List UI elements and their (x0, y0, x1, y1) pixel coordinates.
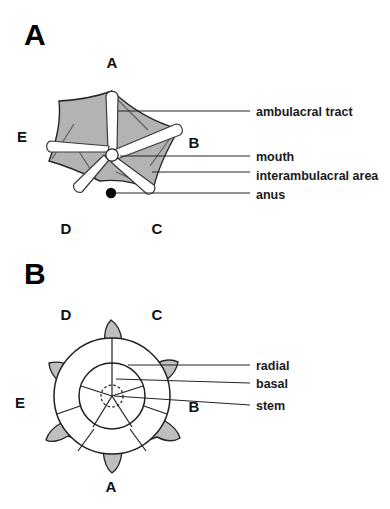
panel-b-ray-label-a: A (106, 478, 117, 495)
label-basal: basal (256, 377, 288, 391)
label-interambulacral-area: interambulacral area (256, 169, 379, 183)
panel-b-ray-label-e: E (15, 394, 25, 411)
panel-b-ray-label-d: D (61, 306, 72, 323)
label-mouth: mouth (256, 150, 294, 164)
label-anus: anus (256, 188, 285, 202)
mouth-marker (106, 149, 118, 161)
panel-a-ray-label-b: B (189, 134, 200, 151)
panel-a-ray-label-c: C (152, 220, 163, 237)
ambulacral-tract-a (106, 91, 118, 150)
panel-a-diagram: A B C D E ambulacral tract mouth interam… (0, 0, 390, 255)
panel-a-ray-label-a: A (107, 54, 118, 71)
panel-b: B D C E B A (0, 255, 390, 509)
label-ambulacral-tract: ambulacral tract (256, 105, 353, 119)
panel-a-ray-label-d: D (61, 220, 72, 237)
panel-b-diagram: D C E B A radial basal stem (0, 255, 390, 509)
label-radial: radial (256, 359, 289, 373)
panel-a-ray-label-e: E (17, 128, 27, 145)
label-stem: stem (256, 399, 285, 413)
panel-b-ray-label-c: C (152, 306, 163, 323)
panel-a: A (0, 0, 390, 255)
anus-marker (106, 188, 116, 198)
